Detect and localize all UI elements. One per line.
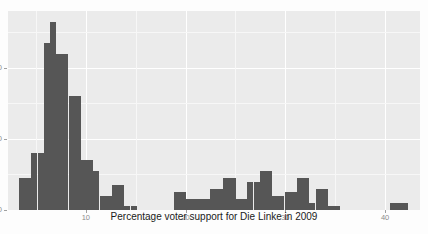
plot-area [8, 11, 420, 210]
figure-root: 02040 10203040 Percentage voter support … [0, 0, 428, 234]
histogram-bar [31, 153, 37, 210]
histogram-bars [8, 11, 420, 210]
y-tick-mark [4, 139, 7, 140]
y-tick-label: 40 [0, 64, 2, 72]
histogram-bar [216, 189, 222, 210]
histogram-bar [309, 203, 315, 210]
histogram-bar [62, 54, 68, 210]
y-axis: 02040 [0, 11, 8, 210]
histogram-bar [402, 203, 408, 210]
y-tick-mark [4, 68, 7, 69]
histogram-bar [247, 182, 253, 210]
histogram-bar [93, 171, 99, 210]
histogram-bar [185, 199, 191, 210]
histogram-bar [278, 196, 284, 210]
x-axis-title: Percentage voter support for Die Linke i… [0, 211, 428, 223]
y-tick-label: 20 [0, 135, 2, 143]
plot-panel [8, 11, 420, 210]
